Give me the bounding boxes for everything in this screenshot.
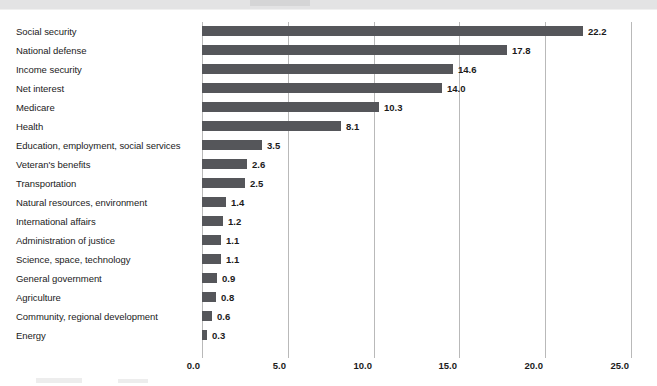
bar-value-label: 14.6	[458, 60, 477, 79]
category-label: International affairs	[16, 212, 96, 231]
category-label: Medicare	[16, 98, 55, 117]
bar-value-label: 2.6	[252, 155, 265, 174]
category-label: Energy	[16, 326, 46, 345]
category-label: Net interest	[16, 79, 64, 98]
category-label: Income security	[16, 60, 82, 79]
bar-value-label: 8.1	[346, 117, 359, 136]
bar	[202, 140, 262, 150]
bar	[202, 102, 379, 112]
chart-row: Net interest14.0	[0, 79, 657, 98]
bar-value-label: 0.9	[222, 269, 235, 288]
chart-row: Community, regional development0.6	[0, 307, 657, 326]
bar-value-label: 0.8	[221, 288, 234, 307]
category-label: National defense	[16, 41, 87, 60]
category-label: Community, regional development	[16, 307, 158, 326]
page-artifact-bottom-mid	[118, 379, 148, 383]
bar-value-label: 1.1	[226, 231, 239, 250]
bar	[202, 311, 212, 321]
bar-value-label: 0.6	[217, 307, 230, 326]
category-label: Transportation	[16, 174, 76, 193]
x-tick-label: 15.0	[439, 358, 460, 374]
bar	[202, 197, 226, 207]
bar	[202, 159, 247, 169]
bar	[202, 178, 245, 188]
category-label: Veteran's benefits	[16, 155, 90, 174]
category-label: Education, employment, social services	[16, 136, 180, 155]
bar-value-label: 22.2	[588, 22, 607, 41]
chart-row: Transportation2.5	[0, 174, 657, 193]
bar	[202, 254, 221, 264]
bar-chart-figure: Social security22.2National defense17.8I…	[0, 0, 657, 386]
bar	[202, 292, 216, 302]
chart-row: National defense17.8	[0, 41, 657, 60]
category-label: Administration of justice	[16, 231, 115, 250]
x-tick-label: 0.0	[187, 358, 202, 374]
bar-value-label: 0.3	[212, 326, 225, 345]
bar-value-label: 1.1	[226, 250, 239, 269]
chart-row: Science, space, technology1.1	[0, 250, 657, 269]
page-artifact-bottom-left	[36, 378, 82, 383]
bar	[202, 273, 217, 283]
bar	[202, 83, 442, 93]
category-label: Agriculture	[16, 288, 61, 307]
chart-row: Health8.1	[0, 117, 657, 136]
bar-value-label: 10.3	[384, 98, 403, 117]
chart-row: Administration of justice1.1	[0, 231, 657, 250]
chart-row: Natural resources, environment1.4	[0, 193, 657, 212]
bar	[202, 121, 341, 131]
bar-value-label: 1.4	[231, 193, 244, 212]
bar-value-label: 14.0	[447, 79, 466, 98]
category-label: Social security	[16, 22, 77, 41]
bar	[202, 26, 583, 36]
bar	[202, 330, 207, 340]
chart-row: Veteran's benefits2.6	[0, 155, 657, 174]
chart-row: Agriculture0.8	[0, 288, 657, 307]
chart-rows: Social security22.2National defense17.8I…	[0, 0, 657, 386]
category-label: General government	[16, 269, 102, 288]
bar-value-label: 17.8	[512, 41, 531, 60]
bar-value-label: 3.5	[267, 136, 280, 155]
category-label: Natural resources, environment	[16, 193, 147, 212]
chart-row: Income security14.6	[0, 60, 657, 79]
bar	[202, 216, 223, 226]
bar-value-label: 2.5	[250, 174, 263, 193]
bar	[202, 64, 453, 74]
x-tick-label: 20.0	[525, 358, 546, 374]
chart-row: International affairs1.2	[0, 212, 657, 231]
chart-row: Education, employment, social services3.…	[0, 136, 657, 155]
chart-row: Medicare10.3	[0, 98, 657, 117]
category-label: Health	[16, 117, 43, 136]
x-tick-label: 25.0	[611, 358, 632, 374]
bar	[202, 235, 221, 245]
chart-row: General government0.9	[0, 269, 657, 288]
bar	[202, 45, 507, 55]
x-tick-label: 10.0	[354, 358, 375, 374]
chart-row: Social security22.2	[0, 22, 657, 41]
bar-value-label: 1.2	[228, 212, 241, 231]
chart-row: Energy0.3	[0, 326, 657, 345]
x-tick-label: 5.0	[273, 358, 288, 374]
category-label: Science, space, technology	[16, 250, 130, 269]
